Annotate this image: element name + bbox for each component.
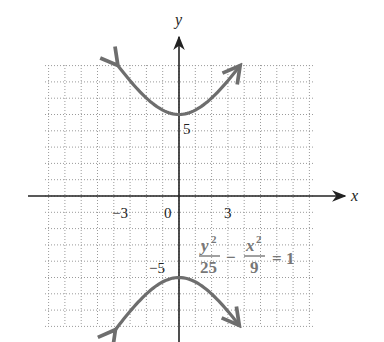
eq-numerator-x: x [245, 236, 255, 255]
eq-equals-one: = 1 [272, 249, 294, 268]
x-axis-label: x [350, 187, 358, 204]
tick-label-5: 5 [183, 121, 191, 137]
equation-label: y 2 25 − x 2 9 = 1 [199, 233, 294, 277]
lower-branch-curve [115, 278, 239, 330]
eq-exponent-1: 2 [211, 233, 217, 245]
tick-label-3: 3 [224, 205, 232, 221]
tick-label-neg5: −5 [149, 260, 165, 276]
tick-label-neg3: −3 [112, 205, 128, 221]
eq-numerator-y: y [199, 236, 209, 255]
tick-label-0: 0 [164, 205, 172, 221]
eq-denominator-25: 25 [200, 258, 217, 277]
eq-minus: − [226, 248, 236, 267]
hyperbola-chart: x y −3 0 3 5 −5 y 2 25 − x 2 9 = 1 [0, 0, 384, 342]
y-axis-label: y [173, 11, 183, 29]
eq-exponent-2: 2 [256, 233, 262, 245]
eq-denominator-9: 9 [250, 258, 259, 277]
